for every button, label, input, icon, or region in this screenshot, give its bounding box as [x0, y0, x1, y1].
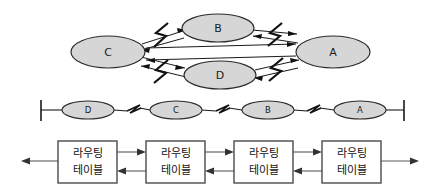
mesh-node-a-label: A — [329, 46, 337, 59]
mesh-topology: C B D A — [71, 14, 370, 89]
bus-node-c-label: C — [173, 105, 179, 115]
mesh-node-a: A — [296, 36, 370, 68]
routing-table-box-3-line1: 라우팅 — [249, 147, 279, 160]
routing-table-box-3-line2: 테이블 — [249, 164, 279, 177]
routing-table-box-1: 라우팅 테이블 — [58, 141, 117, 183]
routing-table-box-2: 라우팅 테이블 — [146, 141, 205, 183]
connector-outbound-left — [21, 158, 58, 165]
routing-table-box-3: 라우팅 테이블 — [234, 141, 293, 183]
lightning-bolt-icon — [269, 58, 283, 81]
routing-table-box-4: 라우팅 테이블 — [322, 141, 381, 183]
routing-table-box-4-line2: 테이블 — [337, 164, 367, 177]
mesh-node-d: D — [184, 61, 256, 89]
link-c-b — [141, 23, 186, 53]
routing-table-box-1-line2: 테이블 — [73, 164, 103, 177]
mesh-node-d-label: D — [216, 69, 224, 82]
link-d-a — [254, 58, 299, 81]
bus-node-c: C — [150, 101, 202, 119]
connector-box1-box2 — [117, 149, 146, 175]
lightning-bolt-icon — [307, 105, 321, 113]
routing-table-box-4-line1: 라우팅 — [337, 147, 367, 160]
bus-node-d: D — [62, 101, 114, 119]
link-c-a — [146, 42, 296, 63]
mesh-node-c-label: C — [104, 46, 112, 59]
bus-node-d-label: D — [85, 105, 92, 115]
lightning-bolt-icon — [268, 23, 282, 46]
link-c-d — [141, 57, 186, 83]
routing-table-box-2-line2: 테이블 — [161, 164, 191, 177]
bus-node-a: A — [334, 101, 386, 119]
mesh-node-b-label: B — [214, 22, 222, 35]
lightning-bolt-icon — [216, 105, 230, 113]
link-b-a — [252, 23, 298, 46]
bus-topology: D C B A — [41, 100, 404, 121]
routing-table-box-2-line1: 라우팅 — [161, 147, 191, 160]
connector-outbound-right — [381, 158, 419, 165]
connector-box3-box4 — [293, 149, 322, 175]
routing-table-box-1-line1: 라우팅 — [73, 147, 103, 160]
bus-node-b-label: B — [265, 105, 271, 115]
network-topology-figure: C B D A D — [0, 0, 436, 196]
mesh-node-b: B — [182, 14, 254, 42]
lightning-bolt-icon — [127, 105, 141, 113]
routing-table-chain: 라우팅 테이블 라우팅 테이블 라우팅 테이블 라우팅 테이블 — [21, 141, 419, 183]
bus-node-a-label: A — [357, 105, 363, 115]
connector-box2-box3 — [205, 149, 234, 175]
mesh-node-c: C — [71, 36, 145, 68]
bus-node-b: B — [242, 101, 294, 119]
